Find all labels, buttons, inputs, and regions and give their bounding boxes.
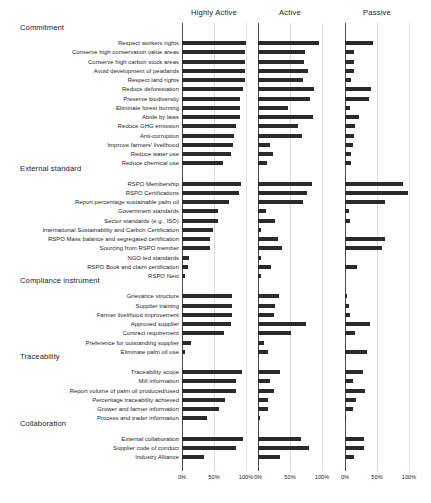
- item-label: Sector standards (e.g., ISO): [104, 218, 179, 225]
- item-label: NGO-led standards: [127, 255, 179, 262]
- item-label: Percentage traceability achieved: [92, 397, 179, 404]
- item-label: Eliminate forest burning: [116, 105, 179, 112]
- stacked-panel-bar-chart: Highly ActiveActivePassiveCommitmentResp…: [0, 0, 431, 503]
- item-label: RSPO Membership: [128, 181, 180, 188]
- bar: [345, 106, 350, 110]
- item-label: Avoid development of peatlands: [94, 68, 179, 75]
- bar: [258, 437, 301, 441]
- bar: [182, 200, 229, 204]
- bar: [182, 115, 240, 119]
- bar: [258, 87, 314, 91]
- bar: [182, 50, 245, 54]
- item-label: Industry Alliance: [135, 454, 179, 461]
- bar: [258, 398, 268, 402]
- bar: [258, 370, 280, 374]
- item-label: Preserve biodiversity: [123, 96, 179, 103]
- bar: [258, 341, 264, 345]
- bar: [345, 60, 354, 64]
- x-tick-label: 0%: [172, 474, 192, 480]
- bar: [258, 331, 291, 335]
- bar: [345, 398, 356, 402]
- bar: [182, 350, 185, 354]
- item-label: RSPO Certifications: [126, 190, 179, 197]
- x-tick-label: 100%: [312, 474, 332, 480]
- bar: [258, 69, 308, 73]
- bar: [258, 389, 274, 393]
- bar: [258, 106, 288, 110]
- bar: [182, 134, 234, 138]
- bar: [345, 370, 363, 374]
- panel-title-passive: Passive: [335, 8, 419, 17]
- bar: [345, 455, 354, 459]
- bar: [182, 106, 240, 110]
- bar: [258, 265, 271, 269]
- bar: [258, 313, 274, 317]
- x-tick-label: 50%: [367, 474, 387, 480]
- item-label: Respect land rights: [128, 77, 179, 84]
- item-label: Traceability scope: [131, 369, 179, 376]
- bar: [345, 209, 349, 213]
- bar: [258, 200, 303, 204]
- bar: [345, 237, 385, 241]
- bar: [182, 370, 242, 374]
- bar: [182, 322, 231, 326]
- bar: [258, 161, 267, 165]
- bar: [258, 219, 275, 223]
- item-label: Improve farmers' livelihood: [107, 142, 179, 149]
- bar: [258, 407, 268, 411]
- bar: [345, 437, 364, 441]
- bar: [258, 115, 313, 119]
- panel-title-active: Active: [248, 8, 332, 17]
- gridline-100: [409, 23, 410, 471]
- bar: [258, 246, 282, 250]
- bar: [182, 437, 243, 441]
- x-tick-label: 100%: [399, 474, 419, 480]
- bar: [345, 41, 373, 45]
- group-label-traceability: Traceability: [20, 352, 60, 361]
- bar: [345, 152, 351, 156]
- item-label: Farmer livelihood improvement: [97, 312, 179, 319]
- bar: [345, 191, 408, 195]
- bar: [182, 313, 232, 317]
- bar: [182, 228, 213, 232]
- bar: [182, 398, 225, 402]
- item-label: Abide by laws: [142, 114, 179, 121]
- bar: [345, 246, 382, 250]
- item-label: Preference for outstanding supplier: [86, 340, 179, 347]
- bar: [258, 182, 312, 186]
- bar: [345, 331, 355, 335]
- gridline-100: [246, 23, 247, 471]
- item-label: International Sustainability and Carbon …: [42, 227, 179, 234]
- item-label: Reduce chemical use: [122, 160, 179, 167]
- item-label: External collaboration: [121, 436, 179, 443]
- bar: [345, 350, 367, 354]
- x-tick-label: 50%: [204, 474, 224, 480]
- bar: [182, 416, 207, 420]
- bar: [182, 331, 224, 335]
- bar: [345, 97, 369, 101]
- bar: [182, 389, 236, 393]
- bar: [258, 60, 304, 64]
- bar: [258, 124, 298, 128]
- bar: [182, 294, 232, 298]
- group-label-collaboration: Collaboration: [20, 419, 66, 428]
- item-label: RSPO Next: [148, 273, 179, 280]
- bar: [258, 322, 306, 326]
- group-label-compliance-instrument: Compliance instrument: [20, 276, 100, 285]
- bar: [258, 228, 261, 232]
- bar: [345, 134, 354, 138]
- item-label: RSPO Book and claim certification: [87, 264, 179, 271]
- x-tick-label: 50%: [280, 474, 300, 480]
- bar: [345, 87, 371, 91]
- bar: [182, 60, 245, 64]
- item-label: Respect workers rights: [118, 40, 179, 47]
- bar: [345, 219, 350, 223]
- bar: [345, 78, 351, 82]
- bar: [182, 152, 231, 156]
- bar: [258, 379, 270, 383]
- bar: [182, 446, 236, 450]
- bar: [182, 455, 204, 459]
- bar: [258, 350, 268, 354]
- item-label: Grower and farmer information: [97, 406, 179, 413]
- item-label: Supplier training: [136, 303, 179, 310]
